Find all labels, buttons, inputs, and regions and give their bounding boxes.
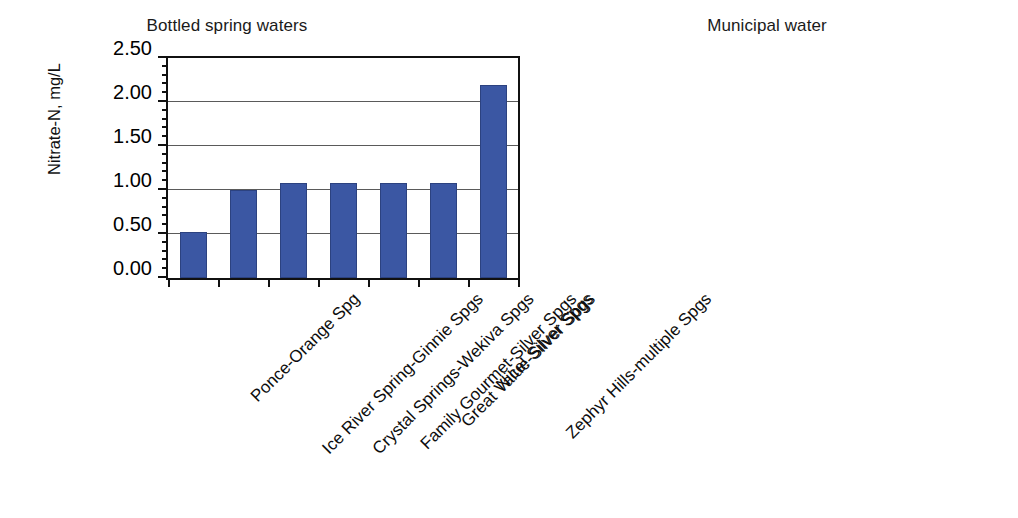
chart-panel-bottled-spring-waters: Bottled spring waters Nitrate-N, mg/L 0.…: [0, 0, 540, 518]
bar-slot: [368, 58, 418, 278]
y-axis-tick-labels: 0.000.501.001.502.002.50: [74, 48, 152, 280]
bar-series-left: [168, 58, 518, 278]
bar[interactable]: [480, 85, 507, 278]
y-tick-label: 1.00: [113, 170, 152, 190]
y-tick-major: [158, 56, 168, 58]
y-axis-ticks-left: [159, 58, 168, 278]
chart-title-left: Bottled spring waters: [0, 16, 497, 36]
y-tick-label: 0.50: [113, 214, 152, 234]
y-tick-major: [158, 144, 168, 146]
bar[interactable]: [230, 190, 257, 278]
y-tick-major: [158, 100, 168, 102]
bar-slot: [268, 58, 318, 278]
y-tick-label: 2.50: [113, 38, 152, 58]
chart-panel-municipal-water: Municipal water WaldoMicanopyJonesvilleG…: [540, 0, 1018, 518]
bar[interactable]: [380, 183, 407, 278]
bar-slot: [468, 58, 518, 278]
bar-slot: [218, 58, 268, 278]
x-category-label: Ponce-Orange Spg: [248, 290, 363, 405]
x-axis-category-labels-left: Ponce-Orange SpgIce River Spring-Ginnie …: [168, 278, 518, 448]
plot-area-left: Ponce-Orange SpgIce River Spring-Ginnie …: [166, 56, 520, 280]
y-tick-major: [158, 232, 168, 234]
bar[interactable]: [180, 232, 207, 278]
y-tick-major: [158, 188, 168, 190]
bar[interactable]: [280, 183, 307, 278]
bar-slot: [318, 58, 368, 278]
x-tick: [518, 278, 520, 287]
figure-canvas: Bottled spring waters Nitrate-N, mg/L 0.…: [0, 0, 1018, 518]
bar-slot: [168, 58, 218, 278]
bar-slot: [418, 58, 468, 278]
chart-title-right: Municipal water: [528, 16, 1006, 36]
y-tick-label: 1.50: [113, 126, 152, 146]
y-tick-label: 0.00: [113, 258, 152, 278]
y-axis-title: Nitrate-N, mg/L: [45, 63, 64, 175]
y-tick-label: 2.00: [113, 82, 152, 102]
y-tick-major: [158, 276, 168, 278]
bar[interactable]: [430, 183, 457, 278]
bar[interactable]: [330, 183, 357, 278]
